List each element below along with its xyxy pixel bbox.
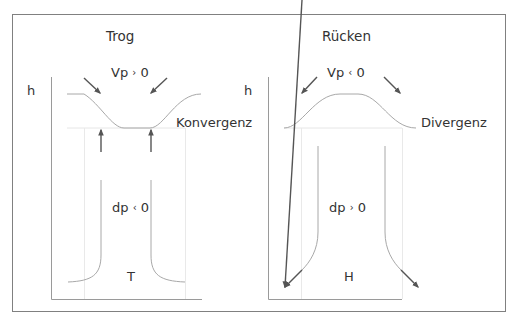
comparison-sign: ‹ [348,67,352,78]
column-right [385,146,401,270]
trough-dp-condition: dp ‹ 0 [112,201,149,214]
outflow-arrow-right [384,77,400,93]
vp-value: 0 [140,65,148,80]
trough-title: Trog [106,30,134,44]
divergence-label: Divergenz [421,116,487,129]
dp-value: 0 [358,200,366,215]
comparison-sign: › [132,67,136,78]
inflow-arrow-right [151,78,167,93]
downflow-arrow-right [401,270,418,287]
low-pressure-label: T [127,270,135,283]
ridge-axis-label: h [244,84,252,97]
dp-variable: dp [112,200,129,215]
ridge-panel [269,0,419,300]
ridge-vp-condition: Vp ‹ 0 [327,66,365,79]
convergence-label: Konvergenz [176,116,252,129]
trough-ridge-diagram [0,0,516,326]
height-axis [269,77,403,300]
downflow-arrow-left [285,0,302,287]
column-right [151,180,185,282]
trough-panel [52,77,203,300]
column-left [302,146,318,270]
outer-frame [13,15,506,312]
height-axis [52,77,203,300]
ridge-dp-condition: dp › 0 [329,201,366,214]
dp-variable: dp [329,200,346,215]
ridge-title: Rücken [322,30,371,44]
vp-value: 0 [356,65,364,80]
trough-axis-label: h [27,84,35,97]
outflow-arrow-left [302,77,317,93]
dp-value: 0 [141,200,149,215]
ridge-curve [284,94,416,128]
comparison-sign: ‹ [133,202,137,213]
trough-vp-condition: Vp › 0 [111,66,149,79]
high-pressure-label: H [344,270,354,283]
inflow-arrow-left [84,78,100,93]
downflow-arrow-left [285,270,302,287]
comparison-sign: › [350,202,354,213]
vp-variable: Vp [111,65,128,80]
vp-variable: Vp [327,65,344,80]
